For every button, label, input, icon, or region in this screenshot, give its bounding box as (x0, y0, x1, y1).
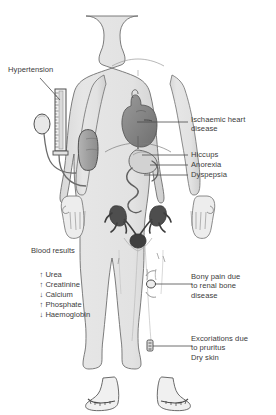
label-ischaemic-heart-disease: Ischaemic heart disease (191, 115, 245, 134)
label-dyspepsia: Dyspepsia (191, 170, 227, 179)
shin-excoriation-marker (147, 340, 153, 351)
label-anorexia: Anorexia (191, 160, 221, 169)
label-bony-pain: Bony pain due to renal bone disease (191, 272, 240, 300)
blood-result-row-haemoglobin: ↓ Haemoglobin (31, 300, 90, 329)
left-foot (86, 377, 119, 411)
label-excoriations: Excoriations due to pruritus Dry skin (191, 334, 248, 362)
figure-root: Hypertension Ischaemic heart disease Hic… (0, 0, 276, 415)
blood-results-title: Blood results (31, 246, 75, 255)
right-foot (157, 377, 190, 411)
left-hand (61, 196, 85, 238)
label-hiccups: Hiccups (191, 150, 218, 159)
blood-result-analyte: Haemoglobin (45, 310, 90, 319)
right-hand (191, 196, 215, 238)
label-hypertension: Hypertension (8, 65, 53, 74)
